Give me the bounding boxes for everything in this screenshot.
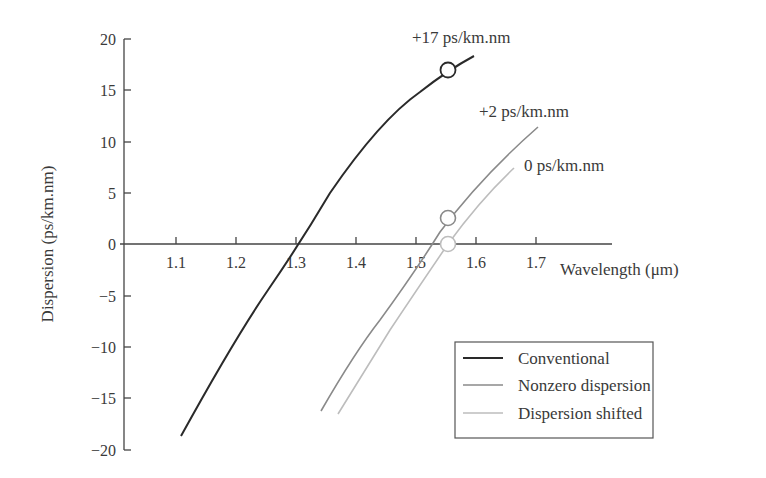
y-tick-label: −20	[91, 442, 116, 459]
annotation-nonzero: +2 ps/km.nm	[479, 102, 569, 121]
y-axis: 20 15 10 5 0 −5 −10 −15 −20 Dispersion (…	[38, 31, 131, 459]
marker-conventional-1550	[441, 63, 456, 78]
annotation-conventional: +17 ps/km.nm	[412, 28, 510, 47]
y-tick-label: 5	[108, 185, 116, 202]
x-tick-label: 1.7	[526, 254, 546, 271]
annotation-shifted: 0 ps/km.nm	[524, 156, 604, 175]
y-axis-title: Dispersion (ps/km.nm)	[38, 166, 57, 323]
legend: Conventional Nonzero dispersion Dispersi…	[455, 342, 653, 438]
y-tick-label: 15	[100, 82, 116, 99]
y-tick-label: 20	[100, 31, 116, 48]
x-tick-label: 1.6	[466, 254, 486, 271]
legend-label-nonzero: Nonzero dispersion	[518, 376, 651, 395]
x-tick-label: 1.2	[226, 254, 246, 271]
x-tick-label: 1.3	[286, 254, 306, 271]
y-tick-label: 10	[100, 134, 116, 151]
marker-shifted-1550	[441, 237, 456, 252]
dispersion-chart: 20 15 10 5 0 −5 −10 −15 −20 Dispersion (…	[0, 0, 766, 478]
y-tick-label: −15	[91, 390, 116, 407]
legend-label-shifted: Dispersion shifted	[518, 404, 643, 423]
x-tick-label: 1.1	[166, 254, 186, 271]
x-axis: 1.1 1.2 1.3 1.4 1.5 1.6 1.7 Wavelength (…	[120, 237, 679, 279]
y-tick-label: 0	[108, 236, 116, 253]
marker-nonzero-1550	[441, 211, 456, 226]
x-tick-label: 1.4	[346, 254, 366, 271]
y-tick-label: −5	[99, 288, 116, 305]
series-conventional-line	[181, 56, 474, 436]
x-axis-title: Wavelength (μm)	[560, 260, 679, 279]
y-tick-label: −10	[91, 339, 116, 356]
legend-label-conventional: Conventional	[518, 349, 610, 368]
